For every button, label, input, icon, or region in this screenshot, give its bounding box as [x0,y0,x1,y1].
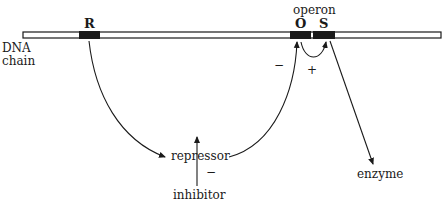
chain-label: chain [2,55,35,68]
inhibitor-label: inhibitor [173,189,225,202]
gene-s-block [313,31,335,39]
arrow-operator-to-structural [301,42,326,57]
gene-s-label: S [319,17,328,30]
arrow-structural-to-enzyme [330,41,373,164]
gene-r-block [79,31,100,39]
arrow-repressor-to-operator [229,42,297,157]
gene-o-block [290,31,311,39]
repressor-label: repressor [171,150,230,163]
plus-sign: + [307,64,317,77]
arrow-r-to-repressor [89,41,165,157]
gene-o-label: O [295,17,306,30]
lac-operon-diagram: DNA chain R operon O S − + repressor − i… [0,0,444,214]
diagram-graphics [0,0,444,214]
minus-sign-operator: − [274,59,284,72]
gene-r-label: R [84,17,95,30]
enzyme-label: enzyme [357,168,403,181]
minus-sign-inhibitor: − [206,166,216,179]
